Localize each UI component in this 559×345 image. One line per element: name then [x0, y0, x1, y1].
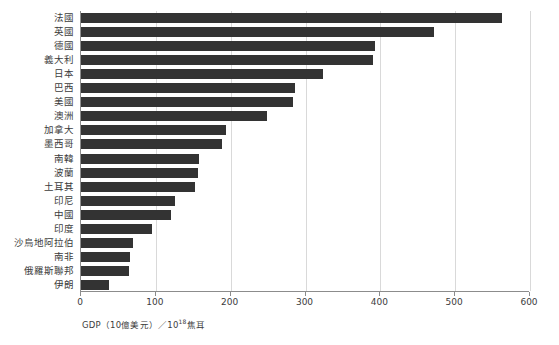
x-axis-tick	[379, 292, 380, 296]
x-axis-title-exponent: 18	[179, 318, 187, 325]
y-axis-category-label: 中國	[54, 208, 74, 222]
y-axis-category-label: 法國	[54, 11, 74, 25]
bar-row	[81, 166, 198, 180]
bar	[81, 196, 175, 206]
bar-row	[81, 123, 226, 137]
bar	[81, 13, 502, 23]
y-axis-category-label: 土耳其	[44, 180, 74, 194]
x-axis-tick	[529, 292, 530, 296]
x-axis-tick-label: 0	[77, 297, 83, 307]
y-axis-category-label: 印尼	[54, 194, 74, 208]
y-axis-category-label: 南非	[54, 250, 74, 264]
x-axis-tick	[305, 292, 306, 296]
y-axis-category-label: 南韓	[54, 152, 74, 166]
y-axis-category-label: 德國	[54, 39, 74, 53]
bar-chart: 法國英國德國義大利日本巴西美國澳洲加拿大墨西哥南韓波蘭土耳其印尼中國印度沙烏地阿…	[0, 0, 559, 345]
y-axis-category-label: 日本	[54, 67, 74, 81]
x-axis-tick	[454, 292, 455, 296]
y-axis-category-label: 印度	[54, 222, 74, 236]
x-axis-tick-label: 600	[520, 297, 537, 307]
plot-area	[80, 11, 529, 292]
bar-row	[81, 236, 133, 250]
y-axis-category-label: 伊朗	[54, 278, 74, 292]
bar-row	[81, 95, 293, 109]
x-axis-title: GDP（10億美元）／1018焦耳	[82, 318, 205, 330]
x-axis-tick-label: 500	[446, 297, 463, 307]
bar	[81, 83, 295, 93]
bar-row	[81, 180, 195, 194]
x-axis-tick-label: 400	[371, 297, 388, 307]
bar-row	[81, 67, 323, 81]
bar	[81, 224, 152, 234]
y-axis-category-label: 美國	[54, 95, 74, 109]
gridline	[530, 11, 531, 291]
bar-row	[81, 250, 130, 264]
x-axis-tick-label: 100	[146, 297, 163, 307]
bar-row	[81, 81, 295, 95]
x-axis-tick	[80, 292, 81, 296]
bar	[81, 154, 199, 164]
bar-row	[81, 278, 109, 292]
x-axis-tick	[155, 292, 156, 296]
bar-row	[81, 194, 175, 208]
x-axis-tick-labels: 0100200300400500600	[0, 297, 559, 311]
bar-row	[81, 53, 373, 67]
y-axis-category-label: 墨西哥	[44, 137, 74, 151]
y-axis-category-label: 巴西	[54, 81, 74, 95]
bar	[81, 210, 171, 220]
x-axis-tick	[230, 292, 231, 296]
y-axis-category-label: 俄羅斯聯邦	[24, 264, 74, 278]
bar-row	[81, 109, 267, 123]
y-axis-category-labels: 法國英國德國義大利日本巴西美國澳洲加拿大墨西哥南韓波蘭土耳其印尼中國印度沙烏地阿…	[0, 11, 74, 292]
bar	[81, 97, 293, 107]
y-axis-category-label: 波蘭	[54, 166, 74, 180]
bar	[81, 41, 375, 51]
bar-row	[81, 11, 502, 25]
bar	[81, 27, 434, 37]
y-axis-category-label: 義大利	[44, 53, 74, 67]
x-axis-title-prefix: GDP（10億美元）／10	[82, 320, 179, 330]
bar	[81, 168, 198, 178]
bar	[81, 182, 195, 192]
y-axis-category-label: 澳洲	[54, 109, 74, 123]
bar-row	[81, 137, 222, 151]
bar	[81, 125, 226, 135]
bar	[81, 111, 267, 121]
bar-row	[81, 222, 152, 236]
bar-row	[81, 25, 434, 39]
bars-layer	[81, 11, 529, 291]
y-axis-category-label: 加拿大	[44, 123, 74, 137]
y-axis-category-label: 沙烏地阿拉伯	[14, 236, 74, 250]
bar-row	[81, 39, 375, 53]
bar	[81, 69, 323, 79]
x-axis-tick-label: 200	[221, 297, 238, 307]
bar-row	[81, 208, 171, 222]
bar-row	[81, 264, 129, 278]
bar-row	[81, 152, 199, 166]
x-axis-title-suffix: 焦耳	[187, 320, 205, 330]
bar	[81, 55, 373, 65]
bar	[81, 238, 133, 248]
bar	[81, 280, 109, 290]
bar	[81, 252, 130, 262]
bar	[81, 139, 222, 149]
y-axis-category-label: 英國	[54, 25, 74, 39]
bar	[81, 266, 129, 276]
x-axis-tick-label: 300	[296, 297, 313, 307]
